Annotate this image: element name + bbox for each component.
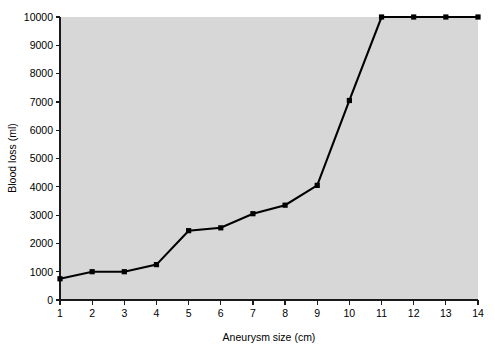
data-point-marker <box>218 225 223 230</box>
data-point-marker <box>186 228 191 233</box>
x-tick-label: 6 <box>218 307 224 319</box>
x-tick-label: 7 <box>250 307 256 319</box>
data-point-marker <box>475 14 480 19</box>
data-point-marker <box>347 98 352 103</box>
data-point-marker <box>443 14 448 19</box>
y-tick-label: 5000 <box>30 152 54 164</box>
y-tick-label: 3000 <box>30 209 54 221</box>
x-tick-label: 2 <box>89 307 95 319</box>
x-tick-label: 1 <box>57 307 63 319</box>
y-tick-label: 0 <box>47 294 53 306</box>
y-tick-label: 4000 <box>30 181 54 193</box>
x-tick-label: 12 <box>408 307 420 319</box>
y-tick-label: 9000 <box>30 39 54 51</box>
data-point-marker <box>154 262 159 267</box>
y-tick-label: 8000 <box>30 67 54 79</box>
x-tick-label: 4 <box>154 307 160 319</box>
data-point-marker <box>379 14 384 19</box>
x-tick-label: 8 <box>282 307 288 319</box>
y-tick-label: 7000 <box>30 96 54 108</box>
plot-area-background <box>60 17 478 300</box>
x-tick-label: 3 <box>121 307 127 319</box>
data-point-marker <box>122 269 127 274</box>
chart-figure: 0100020003000400050006000700080009000100… <box>0 0 495 349</box>
y-tick-label: 1000 <box>30 266 54 278</box>
x-tick-label: 5 <box>186 307 192 319</box>
data-point-marker <box>315 183 320 188</box>
y-tick-label: 6000 <box>30 124 54 136</box>
x-axis-title: Aneurysm size (cm) <box>223 331 316 343</box>
x-tick-label: 13 <box>440 307 452 319</box>
y-tick-label: 10000 <box>24 11 53 23</box>
data-point-marker <box>90 269 95 274</box>
x-tick-label: 9 <box>314 307 320 319</box>
data-point-marker <box>282 203 287 208</box>
line-chart: 0100020003000400050006000700080009000100… <box>0 0 495 349</box>
y-axis-title: Blood loss (ml) <box>6 123 18 192</box>
data-point-marker <box>411 14 416 19</box>
y-tick-label: 2000 <box>30 237 54 249</box>
data-point-marker <box>57 276 62 281</box>
data-point-marker <box>250 211 255 216</box>
x-tick-label: 10 <box>344 307 356 319</box>
x-tick-label: 14 <box>472 307 484 319</box>
x-tick-label: 11 <box>376 307 387 319</box>
